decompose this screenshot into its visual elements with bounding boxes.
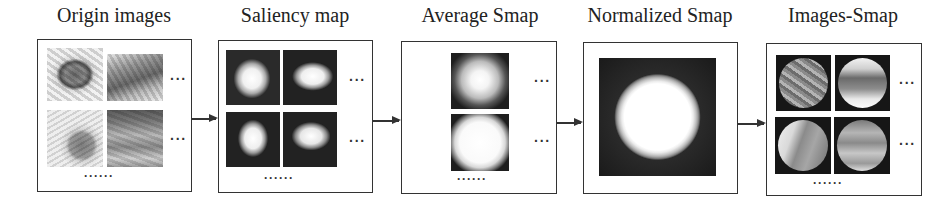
masked-image-disc: [837, 120, 887, 171]
row-ellipsis: ···: [349, 72, 366, 88]
masked-image-disc: [779, 58, 828, 108]
column-ellipsis: ······: [84, 169, 114, 183]
images-smap-1: [776, 55, 831, 111]
normalized-smap: [599, 58, 716, 176]
stage-title-origin: Origin images: [40, 4, 188, 27]
flow-arrow-1: [192, 118, 216, 120]
flow-arrow-4: [738, 123, 764, 125]
stage-box-origin: ··· ··· ······: [37, 39, 192, 192]
stage-title-saliency: Saliency map: [220, 4, 370, 27]
column-ellipsis: ······: [264, 171, 294, 185]
row-ellipsis: ···: [534, 133, 551, 149]
masked-image-disc: [778, 120, 828, 171]
row-ellipsis: ···: [899, 136, 916, 152]
origin-image-2: [107, 54, 163, 101]
stage-box-saliency: ··· ··· ······: [218, 40, 373, 193]
average-smap-1: [451, 53, 509, 109]
row-ellipsis: ···: [170, 131, 187, 147]
stage-title-images-smap: Images-Smap: [768, 4, 918, 27]
row-ellipsis: ···: [170, 71, 187, 87]
stage-box-average: ··· ··· ······: [401, 41, 557, 194]
origin-image-3: [47, 110, 103, 167]
saliency-map-3: [226, 112, 280, 167]
flow-arrow-3: [557, 122, 581, 124]
row-ellipsis: ···: [534, 73, 551, 89]
origin-image-1: [47, 48, 103, 101]
images-smap-4: [834, 117, 890, 174]
saliency-map-4: [283, 112, 337, 167]
stage-box-normalized: [583, 42, 738, 194]
average-smap-2: [451, 114, 509, 171]
saliency-map-1: [226, 50, 280, 105]
images-smap-2: [835, 55, 890, 111]
masked-image-disc: [838, 58, 887, 108]
stage-title-normalized: Normalized Smap: [580, 4, 740, 27]
row-ellipsis: ···: [899, 75, 916, 91]
stage-box-images-smap: ··· ··· ······: [766, 43, 922, 196]
column-ellipsis: ······: [457, 172, 487, 186]
stage-title-average: Average Smap: [405, 4, 555, 27]
column-ellipsis: ······: [813, 176, 843, 190]
saliency-map-2: [283, 50, 337, 105]
origin-image-4: [107, 110, 163, 167]
row-ellipsis: ···: [349, 133, 366, 149]
flow-arrow-2: [373, 120, 399, 122]
images-smap-3: [775, 117, 831, 174]
